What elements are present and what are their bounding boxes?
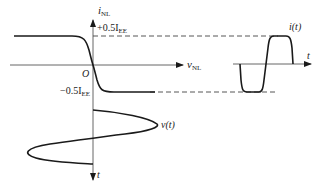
input-waveform-plot: v(t) t [28, 100, 176, 180]
upper-level-label: +0.5IEE [97, 22, 127, 35]
i-nl-axis-label: iNL [98, 4, 110, 18]
input-waveform-label: v(t) [161, 119, 176, 131]
output-waveform-label: i(t) [289, 21, 302, 33]
output-time-axis-label: t [307, 50, 310, 61]
input-time-axis-label: t [97, 169, 100, 180]
tanh-transfer-curve [14, 36, 155, 92]
diagram-canvas: iNL +0.5IEE O −0.5IEE vNL i(t) t v(t) t [0, 0, 321, 189]
transfer-characteristic-plot: iNL +0.5IEE O −0.5IEE vNL [10, 4, 278, 100]
lower-level-label: −0.5IEE [60, 85, 90, 98]
output-waveform-plot: i(t) t [233, 21, 311, 92]
origin-label: O [82, 68, 89, 79]
v-nl-axis-label: vNL [187, 58, 201, 72]
